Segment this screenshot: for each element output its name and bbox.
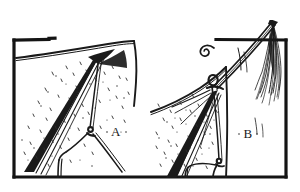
panel-label-b: B (243, 126, 252, 141)
stake-peg-b (185, 158, 224, 178)
panel-labels: A B (106, 124, 258, 141)
panel-label-a: A (111, 124, 121, 139)
panel-a-drawing (16, 41, 136, 178)
tassel-fringe (255, 24, 281, 105)
panel-b-drawing (151, 19, 281, 178)
line-art-canvas: A B (0, 0, 300, 192)
illustration-figure: A B (0, 0, 300, 192)
panel-b-specks (158, 109, 214, 166)
spiral-cord (200, 45, 214, 56)
